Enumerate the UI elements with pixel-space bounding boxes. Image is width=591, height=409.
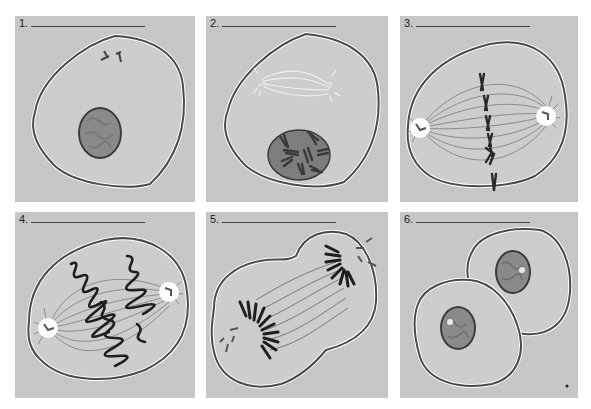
centrosome-icon xyxy=(410,118,430,138)
panel-5-telophase: 5. xyxy=(206,212,388,398)
centrosome-icon xyxy=(159,282,179,302)
nucleolus xyxy=(447,319,453,325)
centrosome-icon xyxy=(38,318,58,338)
cell-diagram xyxy=(206,16,388,202)
dot-mark xyxy=(566,385,569,388)
cell-diagram xyxy=(15,212,195,398)
panel-3-metaphase: 3. xyxy=(400,16,578,202)
panel-4-anaphase: 4. xyxy=(15,212,195,398)
centrosome-icon xyxy=(536,106,556,126)
panel-1-interphase: 1. xyxy=(15,16,195,202)
cell-diagram xyxy=(15,16,195,202)
panel-6-cytokinesis: 6. xyxy=(400,212,578,398)
cell-diagram xyxy=(400,212,578,398)
cell-diagram xyxy=(206,212,388,398)
panel-2-prophase: 2. xyxy=(206,16,388,202)
cell-diagram xyxy=(400,16,578,202)
nucleolus xyxy=(519,267,525,273)
